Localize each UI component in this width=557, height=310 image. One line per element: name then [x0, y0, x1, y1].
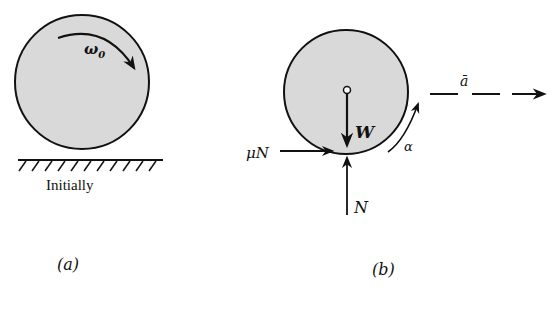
disk-a — [15, 15, 149, 149]
center-point — [344, 87, 351, 94]
caption-b: (b) — [372, 260, 395, 279]
normal-label: N — [353, 198, 369, 217]
accel-label: ā — [460, 73, 468, 89]
ground-hatch — [19, 161, 156, 171]
panel-a: ω0 Initially (a) — [15, 15, 163, 274]
friction-label: μN — [246, 144, 270, 162]
physics-diagram: ω0 Initially (a) W μN N α — [0, 0, 557, 310]
alpha-label: α — [404, 139, 413, 154]
ground-label: Initially — [46, 177, 94, 193]
weight-label: W — [355, 122, 376, 142]
panel-b: W μN N α ā (b) — [246, 30, 544, 279]
caption-a: (a) — [57, 255, 79, 274]
